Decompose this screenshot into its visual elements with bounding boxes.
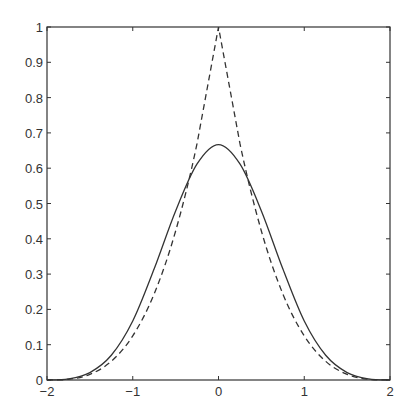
plot-area <box>47 27 390 380</box>
y-tick-label: 0.6 <box>25 161 43 176</box>
y-tick-label: 0.3 <box>25 267 43 282</box>
y-tick-label: 0.4 <box>25 232 43 247</box>
x-tick-label: 2 <box>386 384 393 399</box>
y-tick-label: 0.1 <box>25 338 43 353</box>
line-chart: −2−101200.10.20.30.40.50.60.70.80.91 <box>0 0 413 419</box>
x-tick-label: −1 <box>125 384 140 399</box>
y-tick-label: 1 <box>36 20 43 35</box>
y-tick-label: 0.5 <box>25 197 43 212</box>
y-tick-label: 0.8 <box>25 91 43 106</box>
y-tick-label: 0.9 <box>25 55 43 70</box>
x-tick-label: 0 <box>215 384 222 399</box>
x-tick-label: 1 <box>301 384 308 399</box>
y-tick-label: 0 <box>36 373 43 388</box>
y-tick-label: 0.2 <box>25 302 43 317</box>
y-tick-label: 0.7 <box>25 126 43 141</box>
